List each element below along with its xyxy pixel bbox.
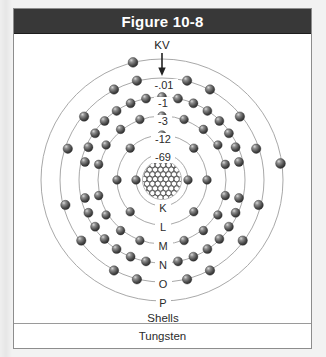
atom-diagram: KV -.01 -1 -3 -12 -69 [14, 34, 311, 325]
shell-label-m: M [158, 240, 167, 252]
energy-label-m: -3 [158, 115, 168, 127]
shell-label-o: O [159, 278, 168, 290]
shell-label-p: P [159, 297, 166, 309]
figure-caption-strip: Tungsten [14, 323, 311, 348]
figure-card: Figure 10-8 [13, 8, 312, 349]
energy-label-n: -1 [158, 97, 168, 109]
shell-label-n: N [159, 259, 167, 271]
energy-label-k: -69 [155, 151, 171, 163]
page-title: Figure 10-8 [121, 13, 203, 30]
energy-label-l: -12 [155, 133, 171, 145]
figure-title-bar: Figure 10-8 [14, 9, 311, 34]
figure-caption: Tungsten [139, 330, 187, 342]
shell-label-k: K [159, 202, 167, 214]
down-arrow-icon [158, 53, 165, 76]
energy-label-o: -.01 [155, 79, 174, 91]
kv-axis-label: KV [154, 39, 170, 51]
figure-page: Figure 10-8 [0, 0, 326, 357]
nucleus [142, 161, 182, 201]
shell-label-l: L [160, 221, 166, 233]
